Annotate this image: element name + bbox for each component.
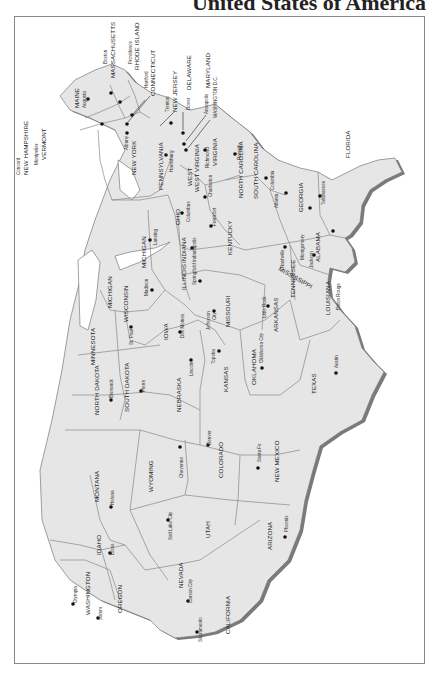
label-tennessee: TENNESSEE (289, 260, 296, 298)
label-new-jersey: NEW JERSEY (171, 71, 178, 112)
label-kansas: KANSAS (222, 366, 229, 392)
label-santa-fe: Santa Fe (257, 443, 262, 462)
label-little-rock: Little Rock (262, 296, 267, 318)
label-alabama: ALABAMA (314, 231, 321, 262)
label-jefferson-city: City (212, 311, 217, 320)
label-carson-city: Carson City (188, 578, 193, 603)
label-louisiana: LOUISIANA (324, 280, 331, 315)
label-oklahoma-city: Oklahoma City (259, 332, 264, 363)
label-baton-rouge: Baton Rouge (336, 283, 341, 310)
label-michigan-up: MICHIGAN (106, 276, 113, 308)
label-jefferson: Jefferson (206, 311, 211, 330)
label-dover: Dover (186, 97, 191, 110)
label-arkansas: ARKANSAS (272, 298, 279, 333)
label-helena: Helena (110, 490, 115, 505)
label-oklahoma: OKLAHOMA (250, 348, 257, 385)
label-colorado: COLORADO (217, 442, 224, 478)
label-illinois: ILLINOIS (180, 264, 187, 290)
label-pierre: Pierre (141, 379, 146, 392)
label-montpelier: Montpelier (34, 143, 39, 165)
label-annapolis: Annapolis (204, 93, 209, 114)
label-lansing: Lansing (153, 228, 158, 245)
label-west-virginia: WEST VIRGINIA (193, 143, 200, 192)
label-wisconsin: WISCONSIN (122, 285, 129, 322)
label-california: CALIFORNIA (224, 595, 231, 634)
label-des-moines: Des Moines (180, 313, 185, 338)
label-wyoming: WYOMING (147, 460, 154, 492)
label-atlanta: Atlanta (274, 193, 279, 208)
label-north-dakota: NORTH DAKOTA (93, 364, 100, 415)
label-lincoln: Lincoln (189, 361, 194, 376)
label-rhode-island: RHODE ISLAND (133, 22, 140, 70)
label-jackson: Jackson (309, 251, 314, 268)
label-columbia: Columbia (270, 170, 275, 190)
label-harrisburg: Harrisburg (169, 150, 174, 172)
label-pennsylvania: PENNSYLVANIA (157, 141, 164, 190)
label-missouri: MISSOURI (224, 295, 231, 327)
label-indianapolis: Indianapolis (192, 237, 197, 262)
label-nashville: Nashville (280, 249, 285, 268)
label-sacramento: Sacramento (198, 617, 203, 642)
label-iowa: IOWA (162, 323, 169, 340)
label-frankfort: Frankfort (212, 207, 217, 226)
label-new-hampshire: NEW HAMPSHIRE (22, 121, 29, 175)
label-cheyenne: Cheyenne (179, 457, 184, 478)
label-indiana: INDIANA (180, 236, 187, 263)
label-trenton: Trenton (165, 96, 170, 112)
label-olympia: Olympia (73, 586, 78, 603)
label-salt-lake-city: Salt Lake City (168, 511, 173, 540)
label-north-carolina: NORTH CAROLINA (237, 141, 244, 198)
label-west: WEST (186, 168, 193, 186)
label-topeka: Topeka (211, 349, 216, 364)
label-idaho: IDAHO (95, 535, 102, 555)
label-virginia: VIRGINIA (211, 137, 218, 166)
label-tallahassee: Tallahassee (321, 180, 326, 205)
label-boise: Boise (110, 543, 115, 555)
label-florida: FLORIDA (344, 130, 351, 158)
label-nevada: NEVADA (177, 562, 184, 588)
label-austin: Austin (334, 355, 339, 368)
label-augusta: Augusta (82, 91, 87, 108)
label-connecticut: CONNECTICUT (149, 50, 156, 96)
label-nebraska: NEBRASKA (175, 377, 182, 412)
label-montgomery: Montgomery (300, 234, 305, 260)
label-oregon: OREGON (116, 585, 123, 613)
label-new-york: NEW YORK (130, 140, 137, 175)
label-richmond: Richmond (205, 147, 210, 168)
label-springfield: Springfield (192, 263, 197, 285)
label-bismarck: Bismarck (109, 378, 114, 398)
label-maine: MAINE (73, 88, 80, 108)
label-albany: Albany (124, 135, 129, 150)
label-utah: UTAH (204, 521, 211, 538)
label-charleston: Charleston (208, 174, 213, 197)
label-madison: Madison (144, 278, 149, 296)
label-arizona: ARIZONA (266, 521, 273, 550)
label-phoenix: Phoenix (284, 515, 289, 532)
label-south-dakota: SOUTH DAKOTA (123, 362, 130, 412)
label-new-mexico: NEW MEXICO (273, 440, 280, 482)
label-salem: Salem (98, 607, 103, 620)
label-columbus: Columbus (186, 201, 191, 222)
label-texas: TEXAS (310, 373, 317, 394)
label-maryland: MARYLAND (204, 52, 211, 88)
label-montana: MONTANA (93, 470, 100, 502)
label-boston: Boston (103, 49, 108, 64)
label-washington: WASHINGTON (84, 572, 91, 615)
label-concord: Concord (16, 157, 21, 175)
us-map: MAINE Augusta Concord NEW HAMPSHIRE Mont… (0, 0, 434, 679)
label-st-paul: St. Paul (129, 329, 134, 345)
label-kentucky: KENTUCKY (226, 221, 233, 256)
label-delaware: DELAWARE (185, 55, 192, 90)
label-ohio: OHIO (174, 209, 181, 225)
label-minnesota: MINNESOTA (89, 327, 96, 365)
label-massachusetts: MASSACHUSETTS (109, 22, 116, 78)
label-washington-dc: WASHINGTON D.C. (213, 76, 218, 118)
label-georgia: GEORGIA (297, 182, 304, 212)
label-south-carolina: SOUTH CAROLINA (252, 142, 259, 199)
label-michigan: MICHIGAN (140, 236, 147, 268)
label-vermont: VERMONT (40, 128, 47, 160)
label-denver: Denver (207, 430, 212, 445)
